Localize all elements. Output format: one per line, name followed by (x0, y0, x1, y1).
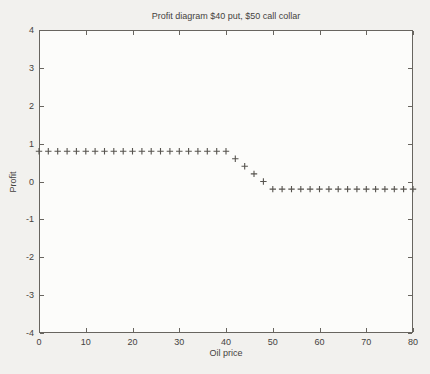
y-tick-label: 4 (4, 25, 34, 35)
x-tick-label: 50 (258, 337, 288, 347)
y-tick-label: 2 (4, 101, 34, 111)
y-tick-label: -3 (4, 290, 34, 300)
x-tick-label: 20 (118, 337, 148, 347)
y-tick-label: 3 (4, 63, 34, 73)
x-tick-label: 30 (164, 337, 194, 347)
x-tick-label: 40 (211, 337, 241, 347)
y-tick-label: -2 (4, 252, 34, 262)
y-tick-label: -4 (4, 328, 34, 338)
figure-window: Profit diagram $40 put, $50 call collar … (0, 0, 430, 374)
y-axis-label: Profit (8, 171, 18, 192)
x-axis-label: Oil price (39, 348, 413, 358)
y-tick-label: -1 (4, 214, 34, 224)
x-tick-label: 0 (24, 337, 54, 347)
chart-title: Profit diagram $40 put, $50 call collar (39, 11, 413, 21)
y-tick-label: 1 (4, 139, 34, 149)
axes-box (40, 31, 413, 333)
x-tick-label: 10 (71, 337, 101, 347)
x-tick-label: 70 (351, 337, 381, 347)
x-tick-label: 60 (305, 337, 335, 347)
scatter-plot (39, 30, 413, 333)
plot-area (39, 30, 413, 333)
x-tick-label: 80 (398, 337, 428, 347)
